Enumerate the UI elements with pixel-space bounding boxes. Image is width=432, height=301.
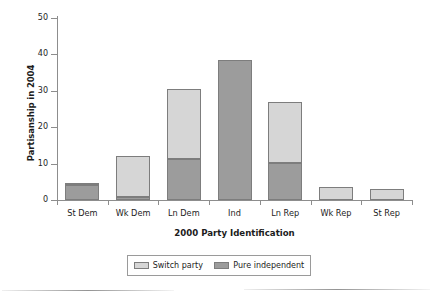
x-axis-tick-label: Ind [228, 208, 241, 218]
x-axis-tick [57, 200, 58, 205]
x-axis-title: 2000 Party Identification [57, 228, 412, 238]
y-axis-tick-label: 40 [38, 49, 48, 58]
x-axis-line [57, 200, 412, 201]
y-axis-tick-label: 20 [38, 122, 48, 131]
bar-segment-pure-independent [218, 60, 252, 200]
x-axis-tick-label: Wk Rep [320, 208, 351, 218]
chart-legend: Switch partyPure independent [127, 255, 311, 276]
bar-segment-switch-party [268, 102, 302, 163]
x-axis-tick-label: St Dem [67, 208, 97, 218]
bar-segment-pure-independent [167, 159, 201, 200]
x-axis-tick [311, 200, 312, 205]
y-axis-tick-label: 10 [38, 159, 48, 168]
x-axis-tick [108, 200, 109, 205]
legend-label: Pure independent [233, 261, 304, 270]
legend-swatch-icon [214, 262, 229, 269]
plot-area [57, 18, 412, 200]
x-axis-tick-label: Ln Rep [271, 208, 299, 218]
legend-entry: Switch party [134, 261, 203, 270]
bar-chart-figure: Partisanship in 2004 01020304050 St DemW… [0, 0, 432, 301]
bar-segment-switch-party [116, 156, 150, 197]
x-axis-tick [361, 200, 362, 205]
scan-artifact-right [244, 289, 430, 290]
x-axis-tick [209, 200, 210, 205]
y-axis-tick-label: 50 [38, 13, 48, 22]
bar-segment-pure-independent [268, 163, 302, 200]
y-axis-tick-label: 30 [38, 86, 48, 95]
bar-segment-switch-party [319, 187, 353, 200]
x-axis-tick [260, 200, 261, 205]
bar-segment-pure-independent [65, 185, 99, 200]
y-axis-tick-label: 0 [43, 195, 48, 204]
x-axis-tick [412, 200, 413, 205]
x-axis-tick [158, 200, 159, 205]
x-axis-tick-label: Wk Dem [116, 208, 151, 218]
legend-label: Switch party [153, 261, 203, 270]
bar-segment-switch-party [167, 89, 201, 159]
bar-segment-switch-party [65, 183, 99, 186]
x-axis-tick-label: St Rep [373, 208, 400, 218]
bar-segment-switch-party [370, 189, 404, 200]
legend-swatch-icon [134, 262, 149, 269]
legend-entry: Pure independent [214, 261, 304, 270]
scan-artifact-left [2, 290, 174, 291]
bar-segment-pure-independent [116, 197, 150, 200]
y-axis-title: Partisanship in 2004 [26, 28, 36, 198]
x-axis-tick-label: Ln Dem [168, 208, 200, 218]
